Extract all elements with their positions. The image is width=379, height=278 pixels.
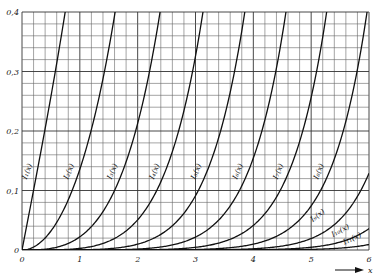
x-tick-label: 4: [250, 255, 256, 264]
curve-I4(x): [22, 0, 208, 250]
curve-I5(x): [22, 0, 250, 250]
x-tick-label: 3: [193, 255, 198, 264]
y-tick-label: 0: [14, 246, 19, 255]
bessel-chart: I₁(x)I₂(x)I₃(x)I₄(x)I₅(x)I₆(x)I₇(x)I₈(x)…: [0, 0, 379, 278]
x-tick-label: 1: [77, 255, 82, 264]
y-tick-label: 0,1: [6, 187, 19, 196]
axis-ticks: 012345600,10,20,30,4: [6, 8, 371, 264]
x-axis-arrow: x: [335, 266, 373, 275]
x-tick-label: 5: [309, 255, 314, 264]
x-tick-label: 6: [367, 255, 372, 264]
y-tick-label: 0,2: [6, 127, 19, 136]
curve-I1(x): [22, 0, 71, 250]
y-tick-label: 0,4: [6, 8, 19, 17]
x-tick-label: 0: [20, 255, 25, 264]
x-axis-label: x: [368, 266, 373, 275]
y-tick-label: 0,3: [6, 68, 19, 77]
curve-label: I₉(x): [308, 207, 327, 225]
x-tick-label: 2: [134, 255, 140, 264]
curve-I2(x): [22, 0, 120, 250]
